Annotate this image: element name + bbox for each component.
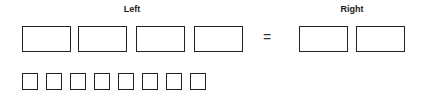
unit-square-1 [22, 73, 38, 90]
unit-square-5 [118, 73, 134, 90]
right-label: Right [341, 4, 364, 14]
right-box-1 [299, 26, 348, 52]
right-box-2 [356, 26, 405, 52]
equals-sign: = [263, 29, 271, 45]
unit-square-2 [46, 73, 62, 90]
left-box-2 [78, 26, 127, 52]
unit-square-4 [94, 73, 110, 90]
unit-square-3 [70, 73, 86, 90]
unit-square-8 [190, 73, 206, 90]
left-label: Left [124, 4, 141, 14]
left-box-3 [136, 26, 185, 52]
left-box-4 [194, 26, 243, 52]
unit-square-7 [166, 73, 182, 90]
unit-square-6 [142, 73, 158, 90]
left-box-1 [22, 26, 71, 52]
